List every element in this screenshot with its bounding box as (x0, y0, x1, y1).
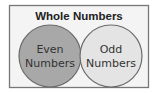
odd-numbers-circle (80, 25, 142, 87)
odd-numbers-label-line2: Numbers (86, 57, 136, 70)
even-numbers-label-line1: Even (36, 43, 63, 56)
universal-set-title: Whole Numbers (35, 10, 123, 22)
even-numbers-label-line2: Numbers (25, 57, 75, 70)
even-numbers-circle (19, 25, 81, 87)
venn-diagram: Whole Numbers Even Numbers Odd Numbers (0, 0, 157, 93)
odd-numbers-label-line1: Odd (100, 43, 123, 56)
